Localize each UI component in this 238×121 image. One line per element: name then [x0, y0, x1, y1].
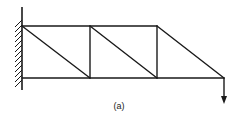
diagonal-member-1 — [22, 26, 90, 78]
diagonal-member-3 — [157, 26, 224, 78]
load-arrow-icon — [221, 78, 227, 104]
diagonal-member-2 — [90, 26, 157, 78]
wall-hatching — [15, 20, 22, 87]
figure-caption: (a) — [108, 101, 130, 111]
